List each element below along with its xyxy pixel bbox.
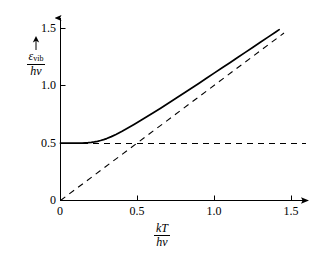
x-axis-label: kT hv — [140, 222, 184, 250]
x-axis-label-denominator: hv — [154, 236, 170, 249]
x-axis-ticks — [61, 196, 292, 201]
epsilon-subscript: vib — [33, 54, 43, 63]
x-tick-label-0: 0 — [57, 205, 63, 217]
y-axis-label-numerator: εvib — [27, 50, 46, 65]
x-axis-label-fraction: kT hv — [154, 222, 170, 248]
x-tick-label-3: 1.5 — [284, 205, 299, 217]
classical-limit-line — [61, 33, 285, 201]
y-axis-label-fraction: εvib hv — [27, 50, 46, 77]
y-axis-label: εvib hv — [14, 36, 58, 79]
y-tick-label-1: 0.5 — [28, 137, 56, 149]
y-axis-ticks — [61, 29, 66, 201]
x-tick-label-1: 0.5 — [130, 205, 145, 217]
chart-figure: 0 0.5 1.0 1.5 0 0.5 1.0 1.5 εvib hv kT h… — [0, 0, 324, 264]
y-tick-label-3: 1.5 — [28, 22, 56, 34]
x-tick-label-2: 1.0 — [207, 205, 222, 217]
x-axis-label-numerator: kT — [154, 222, 170, 236]
vibrational-energy-curve — [61, 30, 280, 144]
y-tick-label-2: 1.0 — [28, 79, 56, 91]
up-arrow-icon — [14, 36, 58, 50]
y-axis-label-denominator: hv — [27, 65, 46, 78]
y-tick-label-0: 0 — [34, 194, 56, 206]
